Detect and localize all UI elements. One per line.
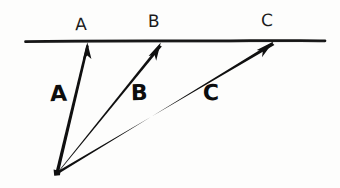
vector-b-tip-label: B [148,13,160,30]
vector-c-arrowhead [257,42,274,58]
vector-c-tip-label: C [261,12,274,29]
vector-a-tip-label: A [75,16,88,33]
vector-a-arrowhead [83,42,91,59]
vector-b-body-label: B [131,82,149,104]
vector-c-body-label: C [203,82,220,104]
vector-diagram-figure: A B C A B C [0,0,340,188]
vector-c-shaft [56,43,275,176]
vector-a-body-label: A [50,83,68,106]
